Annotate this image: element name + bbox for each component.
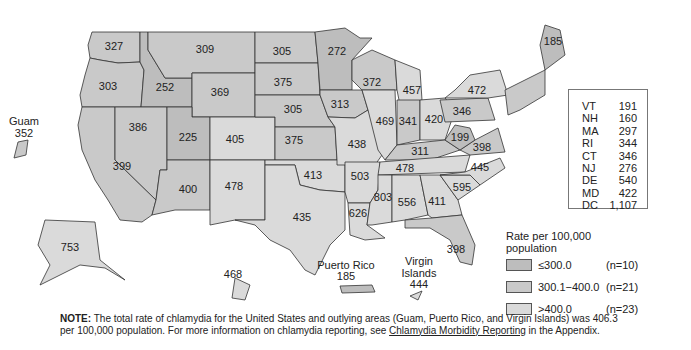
state-value-hi: 468 [224, 268, 242, 280]
inset-value: 422 [619, 187, 637, 199]
legend-count: (n=21) [606, 281, 638, 293]
footnote: NOTE: The total rate of chlamydia for th… [60, 313, 620, 336]
state-value-me: 185 [544, 35, 562, 47]
state-value-mi: 457 [403, 84, 421, 96]
state-value-mt: 309 [196, 43, 214, 55]
inset-row: CT346 [569, 150, 647, 162]
state-value-ia: 313 [331, 98, 349, 110]
inset-row: NH160 [569, 112, 647, 124]
puerto-rico-shape [340, 285, 375, 293]
inset-value: 540 [619, 174, 637, 186]
state-value-mn: 272 [328, 45, 346, 57]
inset-state: RI [582, 137, 593, 149]
inset-value: 297 [619, 125, 637, 137]
inset-state: MA [582, 125, 599, 137]
inset-row: MA297 [569, 125, 647, 137]
state-value-ak: 753 [61, 241, 79, 253]
state-value-ga: 411 [428, 195, 446, 207]
inset-state: NJ [582, 162, 595, 174]
note-label: NOTE: [60, 313, 91, 324]
inset-row: MD422 [569, 187, 647, 199]
state-value-wa: 327 [105, 40, 123, 52]
state-nm [210, 160, 265, 225]
inset-state: MD [582, 187, 599, 199]
state-value-co: 405 [226, 133, 244, 145]
state-value-nd: 305 [273, 45, 291, 57]
legend: Rate per 100,000 population ≤300.0(n=10)… [506, 230, 638, 320]
inset-state: CT [582, 150, 597, 162]
virgin-islands-value: 444 [410, 278, 428, 290]
state-value-sd: 375 [274, 76, 292, 88]
state-value-ks: 375 [285, 134, 303, 146]
guam-value: 352 [15, 127, 33, 139]
inset-value: 1,107 [609, 199, 637, 211]
state-value-oh: 420 [425, 113, 443, 125]
virgin-islands-label-1: Virgin [405, 255, 433, 267]
legend-item: ≤300.0(n=10) [506, 254, 638, 276]
state-mi [395, 60, 422, 105]
puerto-rico-value: 185 [337, 270, 355, 282]
guam-label: Guam [9, 115, 39, 127]
state-mt [148, 32, 255, 78]
state-me [540, 25, 565, 70]
legend-range: ≤300.0 [538, 259, 606, 271]
state-value-sc: 595 [453, 181, 471, 193]
northeast-shape [505, 70, 545, 115]
state-value-az: 400 [179, 183, 197, 195]
virgin-islands-shape [410, 291, 422, 300]
state-value-ca: 399 [113, 160, 131, 172]
state-value-ny: 472 [468, 84, 486, 96]
inset-row: NJ276 [569, 162, 647, 174]
legend-swatch [506, 281, 532, 293]
state-value-or: 303 [99, 80, 117, 92]
inset-value: 191 [619, 100, 637, 112]
state-value-ms: 803 [374, 191, 392, 203]
inset-value: 276 [619, 162, 637, 174]
legend-range: 300.1−400.0 [538, 281, 606, 293]
inset-value: 160 [619, 112, 637, 124]
state-value-wi: 372 [363, 76, 381, 88]
state-value-wy: 369 [211, 86, 229, 98]
state-value-ne: 305 [284, 103, 302, 115]
inset-row: DC1,107 [569, 199, 647, 211]
inset-row: VT191 [569, 100, 647, 112]
state-value-la: 626 [349, 207, 367, 219]
inset-state: DE [582, 174, 597, 186]
state-value-fl: 398 [447, 243, 465, 255]
state-value-nv: 386 [129, 121, 147, 133]
appendix-link[interactable]: Chlamydia Morbidity Reporting [389, 325, 526, 336]
state-value-il: 469 [376, 115, 394, 127]
inset-state: NH [582, 112, 598, 124]
state-value-ok: 413 [304, 169, 322, 181]
legend-title: Rate per 100,000 population [506, 230, 626, 254]
state-value-pa: 346 [453, 105, 471, 117]
guam-shape [14, 140, 28, 158]
state-value-ky: 311 [411, 145, 429, 157]
state-ak [38, 220, 125, 285]
state-value-ar: 503 [351, 170, 369, 182]
inset-value: 344 [619, 137, 637, 149]
state-value-al: 556 [398, 196, 416, 208]
inset-value: 346 [619, 150, 637, 162]
state-hi [232, 278, 250, 300]
legend-count: (n=10) [606, 259, 638, 271]
state-value-tn: 478 [396, 162, 414, 174]
inset-state: DC [582, 199, 598, 211]
state-value-nm: 478 [225, 180, 243, 192]
state-value-tx: 435 [293, 211, 311, 223]
state-value-wv: 199 [451, 131, 469, 143]
state-value-ut: 225 [179, 131, 197, 143]
legend-item: 300.1−400.0(n=21) [506, 276, 638, 298]
state-value-id: 252 [156, 81, 174, 93]
northeast-inset-table: VT191NH160MA297RI344CT346NJ276DE540MD422… [568, 89, 648, 209]
inset-row: DE540 [569, 174, 647, 186]
state-value-mo: 438 [348, 138, 366, 150]
state-value-in: 341 [399, 115, 417, 127]
state-value-nc: 445 [471, 161, 489, 173]
note-text-end: in the Appendix. [526, 325, 600, 336]
inset-state: VT [582, 100, 596, 112]
state-value-va: 398 [473, 141, 491, 153]
inset-row: RI344 [569, 137, 647, 149]
legend-swatch [506, 259, 532, 271]
